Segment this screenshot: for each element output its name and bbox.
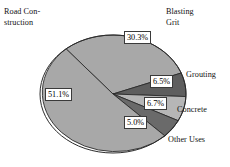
slice-value-blasting-grit: 30.3% xyxy=(124,31,151,44)
slice-label-other-uses: Other Uses xyxy=(168,135,205,146)
slice-value-grouting: 6.5% xyxy=(150,75,173,88)
slice-value-road-construction: 51.1% xyxy=(45,88,72,101)
slice-label-concrete: Concrete xyxy=(177,105,207,116)
slice-value-other-uses: 5.0% xyxy=(124,116,147,129)
slice-value-concrete: 6.7% xyxy=(144,97,167,110)
slice-label-road-construction: Road Con- struction xyxy=(4,7,40,28)
slice-label-blasting-grit: Blasting Grit xyxy=(166,7,194,28)
slice-label-grouting: Grouting xyxy=(186,70,216,81)
pie-chart: Road Con- struction Blasting Grit Grouti… xyxy=(0,0,230,167)
